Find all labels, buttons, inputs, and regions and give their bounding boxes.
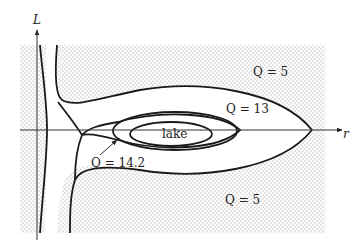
contour-label-q5-upper: Q = 5 [253, 65, 288, 79]
horizontal-axis-label: r [343, 127, 350, 141]
vertical-axis-label: L [32, 13, 41, 27]
contour-label-q13: Q = 13 [226, 102, 269, 116]
lake-label: lake [162, 127, 187, 141]
contour-label-q5-lower: Q = 5 [225, 193, 260, 207]
contour-label-q142: Q = 14.2 [91, 156, 145, 170]
contour-diagram: L r lake Q = 5 Q = 13 Q = 14.2 Q = 5 [0, 0, 364, 246]
